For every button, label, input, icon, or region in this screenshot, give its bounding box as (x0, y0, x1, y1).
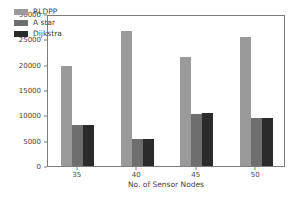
y-tick-label: 20000 (19, 62, 41, 69)
bar-rldpp-40 (121, 31, 132, 166)
bar-a-star-45 (191, 114, 202, 166)
bar-a-star-40 (132, 139, 143, 166)
bar-dijkstra-40 (143, 139, 154, 166)
bar-a-star-50 (251, 118, 262, 166)
bar-dijkstra-35 (83, 125, 94, 166)
x-tick-mark (76, 167, 77, 170)
bar-rldpp-35 (61, 66, 72, 166)
bar-dijkstra-50 (262, 118, 273, 166)
x-tick-label: 40 (132, 172, 141, 179)
y-tick-label: 15000 (19, 88, 41, 95)
bar-rldpp-50 (240, 37, 251, 166)
bar-rldpp-45 (180, 57, 191, 166)
bar-chart-figure: Network Lifetime (in requests) 050001000… (0, 0, 295, 199)
x-tick-mark (195, 167, 196, 170)
legend-swatch-icon (14, 31, 28, 37)
y-tick-label: 5000 (23, 138, 41, 145)
legend-label: RLDPP (33, 8, 57, 16)
x-tick-label: 45 (191, 172, 200, 179)
legend-item: Dijkstra (14, 28, 62, 39)
legend: RLDPPA starDijkstra (12, 5, 64, 40)
legend-swatch-icon (14, 20, 28, 26)
legend-swatch-icon (14, 9, 28, 15)
y-tick-label: 0 (37, 164, 41, 171)
bar-a-star-35 (72, 125, 83, 166)
x-tick-label: 35 (72, 172, 81, 179)
x-axis: 35404550 (47, 167, 285, 181)
legend-item: RLDPP (14, 6, 62, 17)
x-tick-mark (255, 167, 256, 170)
x-tick-label: 50 (251, 172, 260, 179)
legend-label: Dijkstra (33, 30, 62, 38)
x-tick-mark (136, 167, 137, 170)
bar-dijkstra-45 (202, 113, 213, 166)
y-tick-label: 10000 (19, 113, 41, 120)
legend-item: A star (14, 17, 62, 28)
x-axis-label: No. of Sensor Nodes (47, 180, 285, 189)
plot-area (47, 15, 285, 167)
legend-label: A star (33, 19, 55, 27)
